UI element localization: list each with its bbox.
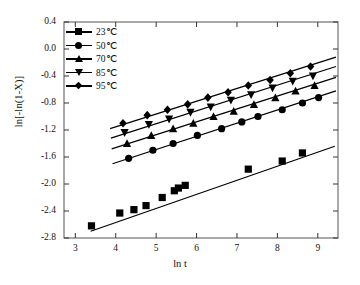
series-fit-line <box>110 57 336 129</box>
legend-item: 95℃ <box>66 79 117 93</box>
data-point <box>184 100 192 109</box>
x-tick-label: 6 <box>187 243 207 253</box>
data-point <box>254 113 261 120</box>
legend-item: 50℃ <box>66 39 117 53</box>
data-point <box>244 81 252 90</box>
circle-marker-glyph <box>75 42 82 49</box>
square-marker <box>66 25 92 38</box>
y-tick-label: -2.8 <box>12 232 56 242</box>
y-tick-label: -0.4 <box>12 70 56 80</box>
data-point <box>194 132 201 139</box>
data-point <box>218 125 225 132</box>
data-point <box>142 202 149 209</box>
legend-item: 85℃ <box>66 66 117 80</box>
data-point <box>247 91 255 99</box>
x-axis-label: ln t <box>0 258 360 269</box>
data-point <box>189 119 197 127</box>
data-point <box>299 99 306 106</box>
data-point <box>245 166 252 173</box>
chart-figure: ln[-ln(1-X)] ln t 0.40.0-0.4-0.8-1.2-1.6… <box>0 0 360 285</box>
y-tick-label: -1.2 <box>12 124 56 134</box>
data-point <box>268 85 276 93</box>
triangle-up-marker-glyph <box>75 55 83 62</box>
data-point <box>315 94 322 101</box>
data-point <box>159 194 166 201</box>
y-tick-label: 0.0 <box>12 43 56 53</box>
legend-label: 95℃ <box>96 80 117 91</box>
data-point <box>125 155 132 162</box>
data-point <box>164 105 172 114</box>
legend-item: 70℃ <box>66 52 117 66</box>
legend-label: 50℃ <box>96 40 117 51</box>
y-tick-label: -1.6 <box>12 151 56 161</box>
legend-item: 23℃ <box>66 25 117 39</box>
x-tick-label: 3 <box>65 243 85 253</box>
legend-label: 23℃ <box>96 26 117 37</box>
data-point <box>224 88 232 97</box>
y-tick-label: -0.8 <box>12 97 56 107</box>
circle-marker <box>66 39 92 52</box>
x-tick-label: 8 <box>267 243 287 253</box>
diamond-marker <box>66 79 92 92</box>
x-tick-label: 9 <box>308 243 328 253</box>
data-point <box>309 72 317 80</box>
data-point <box>88 222 95 229</box>
y-tick-label: -2.0 <box>12 178 56 188</box>
x-tick-label: 7 <box>227 243 247 253</box>
data-point <box>130 206 137 213</box>
legend-label: 70℃ <box>96 53 117 64</box>
series-23℃ <box>88 146 335 231</box>
chart-legend: 23℃50℃70℃85℃95℃ <box>66 25 117 93</box>
data-point <box>238 118 245 125</box>
data-point <box>116 209 123 216</box>
x-tick-label: 5 <box>146 243 166 253</box>
data-point <box>175 184 182 191</box>
legend-label: 85℃ <box>96 67 117 78</box>
data-point <box>119 119 127 128</box>
data-point <box>204 93 212 102</box>
y-tick-label: -2.4 <box>12 205 56 215</box>
series-95℃ <box>110 57 336 129</box>
triangle-up-marker <box>66 52 92 65</box>
square-marker-glyph <box>75 28 82 35</box>
data-point <box>209 112 217 120</box>
data-point <box>299 149 306 156</box>
data-point <box>279 157 286 164</box>
data-point <box>279 106 286 113</box>
data-point <box>182 182 189 189</box>
triangle-down-marker-glyph <box>75 69 83 76</box>
diamond-marker-glyph <box>75 82 83 90</box>
data-point <box>170 140 177 147</box>
x-tick-label: 4 <box>106 243 126 253</box>
data-point <box>165 116 173 124</box>
data-point <box>186 109 194 117</box>
triangle-down-marker <box>66 66 92 79</box>
y-tick-label: 0.4 <box>12 16 56 26</box>
data-point <box>307 62 315 71</box>
data-point <box>149 147 156 154</box>
